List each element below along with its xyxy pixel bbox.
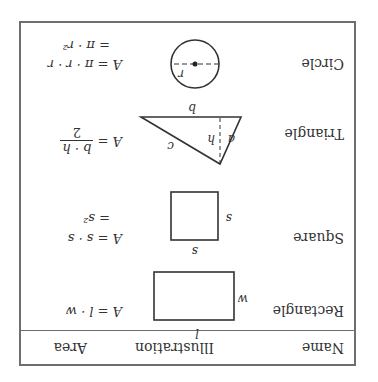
label-triangle-height: h	[207, 132, 215, 146]
rotated-page: Name Illustration Area Rectangle A = l ·…	[0, 0, 378, 382]
label-triangle-side-a: a	[228, 132, 235, 146]
label-rectangle-length: l	[195, 326, 199, 340]
area-formulas-table: Name Illustration Area Rectangle A = l ·…	[19, 21, 356, 366]
illustrations	[21, 23, 354, 364]
label-circle-radius: r	[178, 67, 184, 81]
square-shape	[171, 192, 218, 240]
label-triangle-side-c: c	[167, 139, 174, 153]
label-triangle-base: b	[188, 101, 196, 115]
label-rectangle-width: w	[238, 292, 248, 306]
circle-center-dot	[193, 62, 198, 67]
rectangle-shape	[154, 272, 234, 320]
label-square-side-right: s	[226, 211, 232, 225]
label-square-side-top: s	[192, 244, 198, 258]
triangle-shape	[141, 117, 241, 164]
